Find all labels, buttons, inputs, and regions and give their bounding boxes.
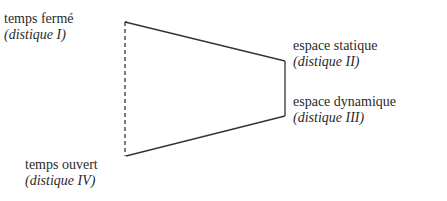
label-sub: (distique III) [293, 110, 396, 126]
label-main: espace dynamique [293, 94, 396, 110]
edge-top [125, 22, 285, 61]
vertex-label-espace-dynamique: espace dynamique (distique III) [293, 94, 396, 126]
label-main: temps ouvert [25, 157, 98, 173]
label-sub: (distique IV) [25, 173, 98, 189]
label-sub: (distique I) [4, 27, 74, 43]
label-main: temps fermé [4, 11, 74, 27]
edge-bottom [126, 116, 285, 156]
vertex-label-temps-ferme: temps fermé (distique I) [4, 11, 74, 43]
label-sub: (distique II) [293, 54, 377, 70]
vertex-label-espace-statique: espace statique (distique II) [293, 38, 377, 70]
vertex-label-temps-ouvert: temps ouvert (distique IV) [25, 157, 98, 189]
label-main: espace statique [293, 38, 377, 54]
